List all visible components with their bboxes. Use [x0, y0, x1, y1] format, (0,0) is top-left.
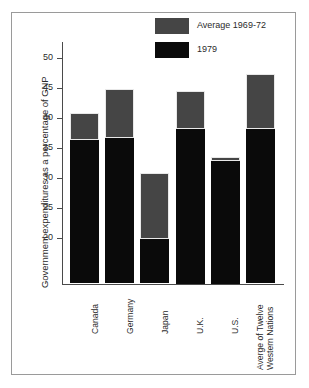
legend-swatch-1979-icon	[155, 42, 189, 58]
y-tick-mark	[57, 208, 63, 209]
legend-label-1979: 1979	[197, 44, 217, 54]
bar-segment-1979	[105, 138, 134, 284]
bar-segment-1979	[70, 140, 99, 283]
bar-segment-average	[105, 89, 134, 138]
bar-group	[246, 74, 275, 283]
bar-group	[211, 157, 240, 284]
bar-group	[105, 89, 134, 283]
category-label: Japan	[160, 310, 170, 333]
legend-swatch-average-icon	[155, 18, 189, 34]
chart-page: Government expenditures as a percentage …	[0, 0, 309, 388]
y-tick-label: 50	[31, 52, 53, 62]
category-label-line: Japan	[160, 310, 170, 333]
bar-segment-average	[140, 173, 169, 238]
y-tick-label: 25	[31, 202, 53, 212]
y-tick-mark	[57, 178, 63, 179]
category-label: Germany	[125, 298, 135, 333]
category-label-line: U.S.	[230, 317, 240, 334]
bar-group	[140, 173, 169, 283]
y-tick-mark	[57, 148, 63, 149]
y-tick-label: 35	[31, 142, 53, 152]
chart-legend: Average 1969-72 1979	[155, 18, 285, 64]
category-label-line: Canada	[90, 303, 100, 333]
bar-segment-1979	[176, 129, 205, 284]
y-tick-mark	[57, 88, 63, 89]
y-tick-mark	[57, 118, 63, 119]
y-tick-mark	[57, 238, 63, 239]
bar-segment-1979	[246, 129, 275, 284]
bar-group	[70, 113, 99, 283]
y-tick-label: 40	[31, 112, 53, 122]
y-axis-title: Government expenditures as a percentage …	[38, 38, 52, 288]
x-axis-line	[62, 284, 284, 285]
bar-segment-average	[70, 113, 99, 140]
category-label-line: Germany	[125, 298, 135, 333]
category-label: Averge of TwelveWestern Nations	[255, 304, 275, 370]
bar-segment-1979	[140, 239, 169, 284]
category-label: Canada	[90, 303, 100, 333]
bar-segment-average	[246, 74, 275, 129]
y-tick-label: 20	[31, 232, 53, 242]
category-label: U.S.	[230, 317, 240, 334]
category-label: U.K.	[195, 317, 205, 334]
bar-group	[176, 91, 205, 284]
y-tick-label: 45	[31, 82, 53, 92]
legend-label-average: Average 1969-72	[197, 20, 266, 30]
category-label-line: Averge of Twelve	[255, 304, 265, 370]
bar-segment-1979	[211, 161, 240, 284]
y-axis-line	[62, 42, 63, 285]
y-tick-label: 30	[31, 172, 53, 182]
bar-segment-average	[176, 91, 205, 129]
category-label-line: U.K.	[195, 317, 205, 334]
y-tick-mark	[57, 58, 63, 59]
category-label-line: Western Nations	[265, 304, 275, 370]
